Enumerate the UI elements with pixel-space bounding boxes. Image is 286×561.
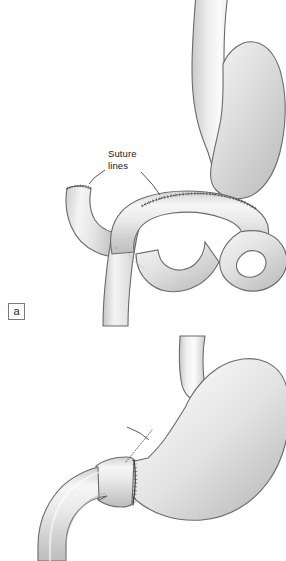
leader-line-a-left — [89, 170, 105, 184]
panel-b-illustration — [0, 330, 286, 561]
shading-dot-a — [115, 247, 117, 249]
panel-tag-a: a — [8, 303, 25, 320]
leader-line-a-right — [141, 172, 160, 195]
duodenal-cuff-b — [96, 457, 134, 507]
suture-lines-label: Suture lines — [108, 148, 137, 171]
panel-a-illustration — [0, 0, 286, 330]
leader-line-b — [127, 427, 149, 440]
jejunal-loop-a — [220, 231, 286, 292]
panel-a: Suture lines a — [0, 0, 286, 330]
duodenum-b — [38, 467, 107, 561]
panel-b: Suture line b — [0, 330, 286, 561]
jejunal-limb-return-a — [136, 242, 219, 292]
figure-root: Suture lines a — [0, 0, 286, 561]
